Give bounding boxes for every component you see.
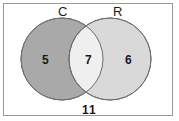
total-label: 11 xyxy=(82,104,97,116)
set-label-c: C xyxy=(58,5,67,18)
region-count-right-only: 6 xyxy=(125,54,132,66)
region-count-intersection: 7 xyxy=(85,54,92,66)
region-count-left-only: 5 xyxy=(42,54,49,66)
set-label-r: R xyxy=(113,5,122,18)
venn-diagram-figure: C R 5 7 6 11 xyxy=(0,0,179,121)
